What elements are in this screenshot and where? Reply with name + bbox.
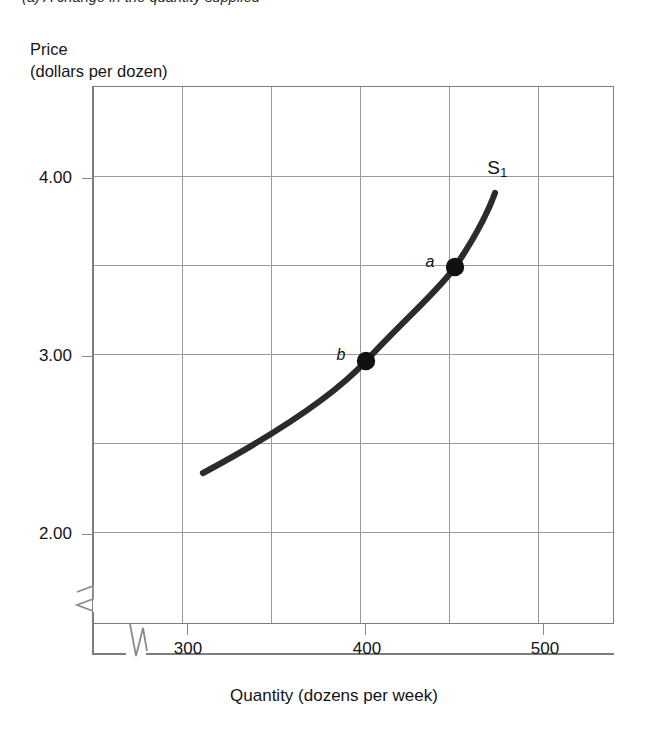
gridline-vertical — [538, 87, 539, 623]
plot-frame — [92, 86, 614, 624]
y-axis-title-line2: (dollars per dozen) — [30, 60, 168, 82]
x-tick-label: 500 — [531, 639, 559, 659]
figure-caption: (a) A change in the quantity supplied — [22, 0, 260, 5]
curve-label-s1: S1 — [487, 157, 507, 179]
gridline-horizontal — [93, 354, 613, 355]
x-axis-title: Quantity (dozens per week) — [0, 686, 668, 706]
y-axis-title: Price (dollars per dozen) — [30, 38, 168, 82]
y-axis-title-line1: Price — [30, 40, 68, 58]
y-axis-line — [92, 86, 94, 586]
gridline-horizontal — [93, 532, 613, 533]
gridline-horizontal — [93, 443, 613, 444]
x-tick-mark — [187, 624, 188, 635]
x-tick-label: 300 — [174, 639, 202, 659]
y-axis-break-icon — [74, 580, 108, 618]
x-tick-label: 400 — [353, 639, 381, 659]
gridline-vertical — [271, 87, 272, 623]
x-tick-mark — [543, 624, 544, 635]
gridline-horizontal — [93, 265, 613, 266]
y-tick-mark — [82, 178, 93, 179]
data-point-b-label: b — [337, 346, 346, 364]
data-point-a-label: a — [426, 253, 435, 271]
y-tick-label: 2.00 — [39, 524, 72, 544]
y-tick-label: 3.00 — [39, 346, 72, 366]
gridline-vertical — [449, 87, 450, 623]
y-axis-line-lower-segment — [92, 612, 94, 654]
gridline-horizontal — [93, 176, 613, 177]
x-tick-mark — [365, 624, 366, 635]
y-tick-label: 4.00 — [39, 168, 72, 188]
curve-label-s1-subscript: 1 — [500, 166, 507, 180]
gridline-vertical — [182, 87, 183, 623]
y-tick-mark — [82, 356, 93, 357]
y-tick-mark — [82, 534, 93, 535]
gridline-vertical — [360, 87, 361, 623]
curve-label-s1-text: S — [487, 157, 500, 178]
x-axis-break-icon — [118, 620, 158, 676]
